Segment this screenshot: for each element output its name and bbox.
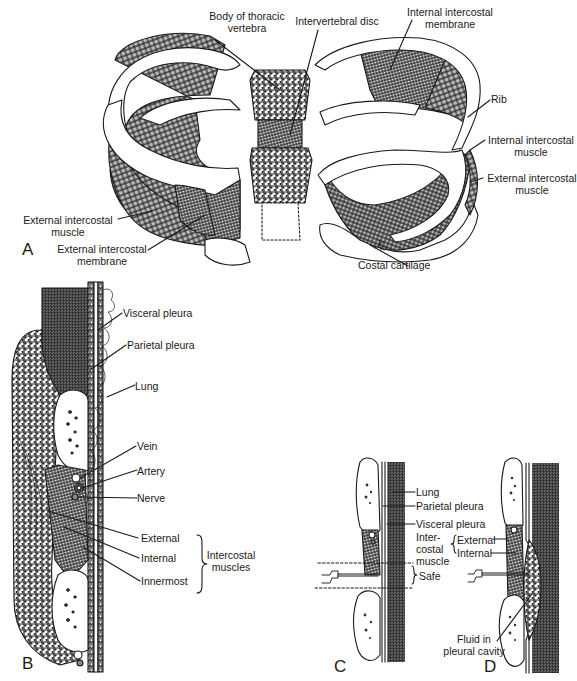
- label-lung: Lung: [135, 380, 158, 392]
- label-line: Body of thoracic: [209, 10, 284, 22]
- label-line: vertebra: [209, 22, 284, 34]
- label-external-intercostal-muscle-left: External intercostal muscle: [23, 214, 112, 238]
- label-line: costal: [416, 543, 449, 555]
- label-artery: Artery: [137, 465, 165, 477]
- label-c-lung: Lung: [416, 486, 439, 498]
- label-costal-cartilage: Costal cartilage: [358, 259, 430, 271]
- label-d-internal: Internal: [457, 547, 492, 559]
- label-external-intercostal-muscle-right: External intercostal muscle: [487, 172, 576, 196]
- label-internal-intercostal-membrane: Internal intercostal membrane: [407, 6, 493, 30]
- panel-letter-b: B: [22, 655, 33, 673]
- label-line: muscles: [207, 561, 255, 573]
- label-line: External intercostal: [57, 243, 146, 255]
- label-line: membrane: [407, 18, 493, 30]
- label-line: pleural cavity: [443, 645, 504, 657]
- label-internal-intercostal-muscle: Internal intercostal muscle: [488, 134, 574, 158]
- label-external-intercostal-membrane: External intercostal membrane: [57, 243, 146, 267]
- label-innermost-muscle: Innermost: [141, 575, 188, 587]
- label-line: muscle: [23, 226, 112, 238]
- panel-letter-a: A: [22, 241, 33, 259]
- label-internal-muscle: Internal: [141, 552, 176, 564]
- label-c-intercostal-muscle: Inter- costal muscle: [416, 531, 449, 567]
- panel-c-art: [315, 458, 417, 662]
- label-line: Fluid in: [443, 633, 504, 645]
- panel-letter-d: D: [484, 658, 496, 676]
- label-line: Internal intercostal: [488, 134, 574, 146]
- label-line: muscle: [487, 184, 576, 196]
- label-line: External intercostal: [23, 214, 112, 226]
- label-line: muscle: [488, 146, 574, 158]
- label-line: External intercostal: [487, 172, 576, 184]
- label-line: Inter-: [416, 531, 449, 543]
- label-c-visceral-pleura: Visceral pleura: [416, 518, 485, 530]
- label-nerve: Nerve: [137, 492, 165, 504]
- label-c-parietal-pleura: Parietal pleura: [416, 500, 484, 512]
- label-rib: Rib: [491, 93, 507, 105]
- label-intervertebral-disc: Intervertebral disc: [295, 15, 378, 27]
- label-external-muscle: External: [141, 532, 180, 544]
- label-line: Internal intercostal: [407, 6, 493, 18]
- label-c-safe: Safe: [419, 570, 441, 582]
- panel-letter-c: C: [334, 658, 346, 676]
- label-d-fluid-in-pleural-cavity: Fluid in pleural cavity: [443, 633, 504, 657]
- anatomy-figure: Body of thoracic vertebra Intervertebral…: [0, 0, 577, 681]
- label-body-of-thoracic-vertebra: Body of thoracic vertebra: [209, 10, 284, 34]
- label-d-external: External: [457, 534, 496, 546]
- label-parietal-pleura: Parietal pleura: [127, 339, 195, 351]
- label-visceral-pleura: Visceral pleura: [123, 307, 192, 319]
- label-line: membrane: [57, 255, 146, 267]
- label-vein: Vein: [137, 440, 157, 452]
- panel-a-art: [103, 20, 490, 266]
- label-line: Intercostal: [207, 549, 255, 561]
- label-intercostal-muscles: Intercostal muscles: [207, 549, 255, 573]
- label-line: muscle: [416, 555, 449, 567]
